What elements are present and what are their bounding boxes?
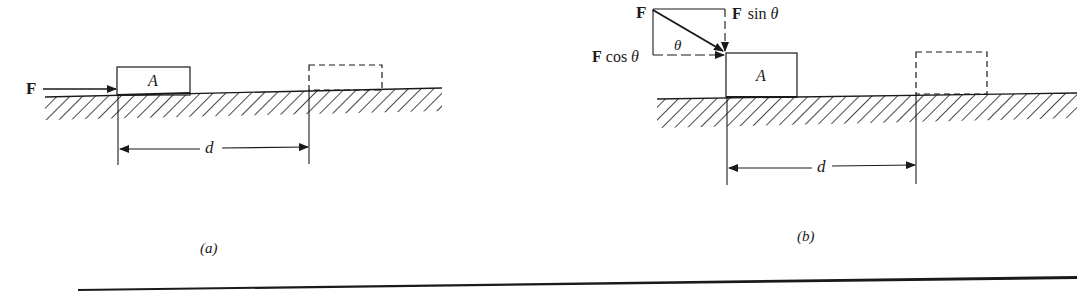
block-a-label: A xyxy=(147,72,158,89)
displaced-block-dashed xyxy=(916,52,987,94)
displaced-block-dashed xyxy=(309,65,382,90)
block-a-label: A xyxy=(755,67,766,84)
distance-label: d xyxy=(817,157,826,176)
bottom-rule xyxy=(78,276,1077,291)
force-label: F xyxy=(636,3,646,22)
force-cos-label: Fcos θ xyxy=(592,48,639,65)
caption-b: (b) xyxy=(797,228,815,245)
force-label: F xyxy=(26,79,36,98)
panel-b: A F Fsin θ Fcos θ θ d (b) xyxy=(592,3,1077,245)
work-diagram: A F d (a) A F Fsin θ xyxy=(0,0,1077,291)
caption-a: (a) xyxy=(200,240,218,257)
angle-label: θ xyxy=(674,37,682,53)
force-arrow-diagonal xyxy=(653,10,723,51)
panel-a: A F d (a) xyxy=(26,65,442,257)
distance-label: d xyxy=(205,138,214,157)
force-sin-label: Fsin θ xyxy=(732,5,778,22)
